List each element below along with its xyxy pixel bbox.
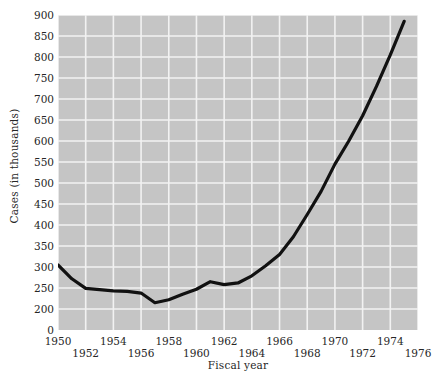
y-tick-label: 450 xyxy=(2,199,54,210)
line-chart-figure: Cases (in thousands) 9008508007507006506… xyxy=(0,0,441,382)
y-tick-label: 900 xyxy=(2,10,54,21)
x-tick-label: 1976 xyxy=(398,348,438,359)
x-tick-label: 1950 xyxy=(38,336,78,347)
y-tick-label: 300 xyxy=(2,262,54,273)
x-tick-label: 1956 xyxy=(121,348,161,359)
y-tick-label: 550 xyxy=(2,157,54,168)
x-tick-label: 1964 xyxy=(232,348,272,359)
y-tick-label: 0 xyxy=(2,325,54,336)
x-axis-tick-labels: 1950195219541956195819601962196419661968… xyxy=(58,0,441,382)
x-tick-label: 1954 xyxy=(93,336,133,347)
y-tick-label: 500 xyxy=(2,178,54,189)
x-tick-label: 1952 xyxy=(66,348,106,359)
y-tick-label: 650 xyxy=(2,115,54,126)
x-tick-label: 1958 xyxy=(149,336,189,347)
y-tick-label: 850 xyxy=(2,31,54,42)
x-tick-label: 1966 xyxy=(260,336,300,347)
y-tick-label: 400 xyxy=(2,220,54,231)
x-tick-label: 1968 xyxy=(287,348,327,359)
y-tick-label: 700 xyxy=(2,94,54,105)
y-axis-tick-labels: 9008508007507006506005505004504003503002… xyxy=(0,0,54,382)
x-tick-label: 1974 xyxy=(370,336,410,347)
x-axis-title: Fiscal year xyxy=(58,359,418,371)
y-tick-label: 800 xyxy=(2,52,54,63)
y-tick-label: 350 xyxy=(2,241,54,252)
x-tick-label: 1962 xyxy=(204,336,244,347)
y-tick-label: 750 xyxy=(2,73,54,84)
y-tick-label: 200 xyxy=(2,304,54,315)
x-tick-label: 1960 xyxy=(176,348,216,359)
x-tick-label: 1970 xyxy=(315,336,355,347)
y-tick-label: 250 xyxy=(2,283,54,294)
x-tick-label: 1972 xyxy=(343,348,383,359)
y-tick-label: 600 xyxy=(2,136,54,147)
